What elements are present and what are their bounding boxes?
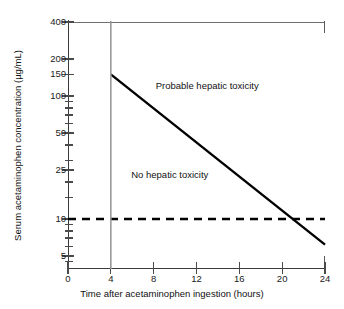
y-tick-minor [65, 101, 73, 102]
x-tick-label: 0 [53, 274, 83, 284]
plot-top-border [68, 22, 325, 23]
y-tick-minor [65, 107, 73, 108]
x-tick-label: 8 [139, 274, 169, 284]
y-axis-title: Serum acetaminophen concentration (µg/mL… [12, 21, 23, 271]
y-tick-minor [65, 261, 73, 262]
y-tick-minor [65, 230, 73, 231]
y-tick-minor [65, 114, 73, 115]
annotation-no-hepatic-toxicity: No hepatic toxicity [131, 169, 208, 180]
y-tick-minor [65, 237, 73, 238]
annotation-probable-hepatic-toxicity: Probable hepatic toxicity [156, 80, 259, 91]
chart-series-layer [0, 0, 344, 309]
x-tick-label: 24 [310, 274, 340, 284]
y-tick-label: 25 [55, 165, 66, 175]
x-tick-label: 4 [96, 274, 126, 284]
y-tick-minor [65, 181, 73, 182]
y-tick-minor [65, 123, 73, 124]
y-tick-label: 400 [50, 17, 66, 27]
treatment-line [111, 74, 325, 244]
y-tick-label: 100 [50, 91, 66, 101]
x-tick-label: 20 [267, 274, 297, 284]
x-tick-label: 12 [182, 274, 212, 284]
y-tick-label: 50 [55, 128, 66, 138]
y-tick-minor [65, 224, 73, 225]
y-tick-minor [65, 197, 73, 198]
x-tick-label: 16 [224, 274, 254, 284]
plot-right-border-top [324, 21, 325, 33]
nomogram-chart: 4002001501005025105 04812162024 Probable… [0, 0, 344, 309]
y-tick-minor [65, 144, 73, 145]
y-tick-label: 10 [55, 214, 66, 224]
x-axis-title: Time after acetaminophen ingestion (hour… [0, 288, 344, 299]
y-tick-label: 5 [61, 251, 66, 261]
y-tick-minor [65, 160, 73, 161]
y-tick-minor [65, 246, 73, 247]
y-tick-label: 150 [50, 69, 66, 79]
y-tick-label: 200 [50, 54, 66, 64]
